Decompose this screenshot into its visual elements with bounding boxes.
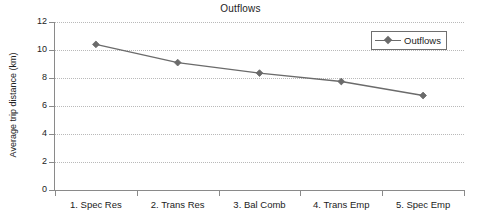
x-axis-tick-labels: 1. Spec Res2. Trans Res3. Bal Comb4. Tra…	[55, 199, 464, 215]
y-axis-tick-label: 0	[3, 184, 47, 194]
x-axis-tick-mark	[137, 190, 138, 196]
x-axis-tick-label: 2. Trans Res	[137, 199, 219, 215]
y-axis-tick-label: 6	[3, 100, 47, 110]
x-axis-tick-label: 4. Trans Emp	[300, 199, 382, 215]
x-axis-tick-label: 1. Spec Res	[55, 199, 137, 215]
y-axis-tick-label: 12	[3, 16, 47, 26]
x-axis-tick-mark	[464, 190, 465, 196]
y-axis-tick-mark	[49, 78, 54, 79]
data-point-marker[interactable]	[93, 41, 100, 48]
x-axis-tick-mark	[300, 190, 301, 196]
x-axis-tick-mark	[382, 190, 383, 196]
y-axis-tick-label: 10	[3, 44, 47, 54]
y-axis-tick-mark	[49, 162, 54, 163]
chart-container: Outflows Average trip distance (km) 0246…	[0, 0, 481, 222]
x-axis-tick-label: 3. Bal Comb	[219, 199, 301, 215]
data-point-marker[interactable]	[420, 92, 427, 99]
legend[interactable]: Outflows	[371, 31, 447, 50]
legend-marker-icon	[375, 36, 401, 45]
y-axis-tick-label: 2	[3, 156, 47, 166]
x-axis-tick-mark	[219, 190, 220, 196]
data-point-marker[interactable]	[256, 70, 263, 77]
data-point-marker[interactable]	[174, 59, 181, 66]
x-axis-tick-mark	[55, 190, 56, 196]
legend-item-label: Outflows	[404, 35, 441, 46]
y-axis-tick-labels: 024681012	[0, 22, 47, 190]
x-axis-tick-label: 5. Spec Emp	[382, 199, 464, 215]
x-axis-line	[54, 190, 464, 191]
y-axis-tick-label: 8	[3, 72, 47, 82]
y-axis-tick-mark	[49, 190, 54, 191]
y-axis-tick-label: 4	[3, 128, 47, 138]
y-axis-tick-mark	[49, 134, 54, 135]
y-axis-tick-mark	[49, 50, 54, 51]
y-axis-tick-mark	[49, 22, 54, 23]
data-point-marker[interactable]	[338, 78, 345, 85]
y-axis-tick-mark	[49, 106, 54, 107]
chart-title: Outflows	[0, 3, 481, 14]
